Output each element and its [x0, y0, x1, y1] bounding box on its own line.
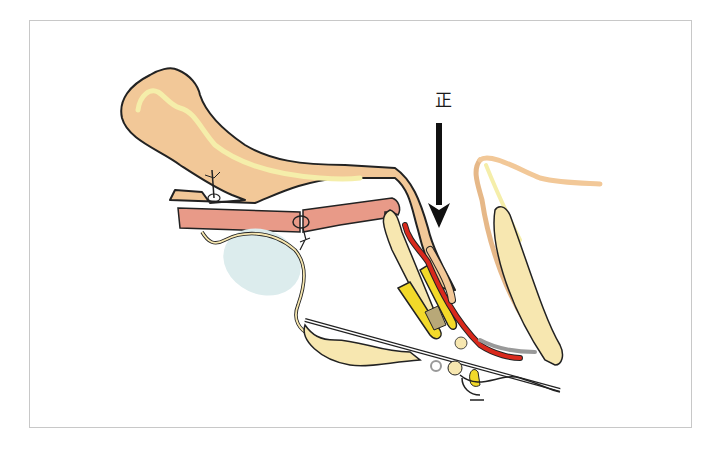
- small-ring: [431, 361, 441, 371]
- direction-label: 正: [435, 92, 452, 109]
- small-nodule-2: [455, 337, 467, 349]
- small-nodule: [448, 361, 462, 375]
- tooth-bud: [470, 370, 480, 387]
- direction-arrow: [428, 123, 450, 228]
- right-structure: [476, 158, 600, 365]
- anatomical-diagram: [0, 0, 714, 449]
